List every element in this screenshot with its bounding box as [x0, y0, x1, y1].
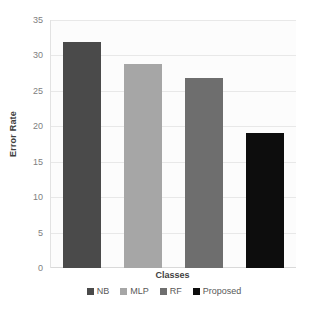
- legend-item-nb[interactable]: NB: [87, 286, 110, 296]
- legend-item-proposed[interactable]: Proposed: [193, 286, 242, 296]
- y-axis-tick-15: 15: [33, 157, 43, 167]
- y-axis-tick-25: 25: [33, 86, 43, 96]
- bars-layer: [51, 20, 296, 268]
- bar-proposed: [246, 133, 284, 268]
- legend-swatch-icon: [193, 288, 200, 295]
- bar-rf: [185, 78, 223, 268]
- legend-swatch-icon: [160, 288, 167, 295]
- y-axis-title-text: Error Rate: [8, 111, 18, 157]
- y-axis-tick-labels: 35302520151050: [22, 20, 46, 268]
- legend-label: MLP: [130, 286, 149, 296]
- bar-mlp: [124, 64, 162, 268]
- y-axis-tick-35: 35: [33, 15, 43, 25]
- y-axis-title: Error Rate: [2, 0, 24, 268]
- bar-nb: [63, 42, 101, 268]
- legend-label: NB: [97, 286, 110, 296]
- plot-area: [50, 20, 296, 268]
- chart-legend: NBMLPRFProposed: [0, 286, 328, 296]
- y-axis-tick-20: 20: [33, 121, 43, 131]
- y-axis-tick-30: 30: [33, 50, 43, 60]
- legend-label: Proposed: [203, 286, 242, 296]
- legend-item-mlp[interactable]: MLP: [120, 286, 149, 296]
- y-axis-tick-10: 10: [33, 192, 43, 202]
- legend-label: RF: [170, 286, 182, 296]
- legend-swatch-icon: [120, 288, 127, 295]
- x-axis-title: Classes: [50, 270, 295, 280]
- bar-chart: Error Rate 35302520151050 Classes NBMLPR…: [0, 0, 328, 316]
- legend-swatch-icon: [87, 288, 94, 295]
- legend-item-rf[interactable]: RF: [160, 286, 182, 296]
- y-axis-tick-0: 0: [38, 263, 43, 273]
- y-axis-tick-5: 5: [38, 228, 43, 238]
